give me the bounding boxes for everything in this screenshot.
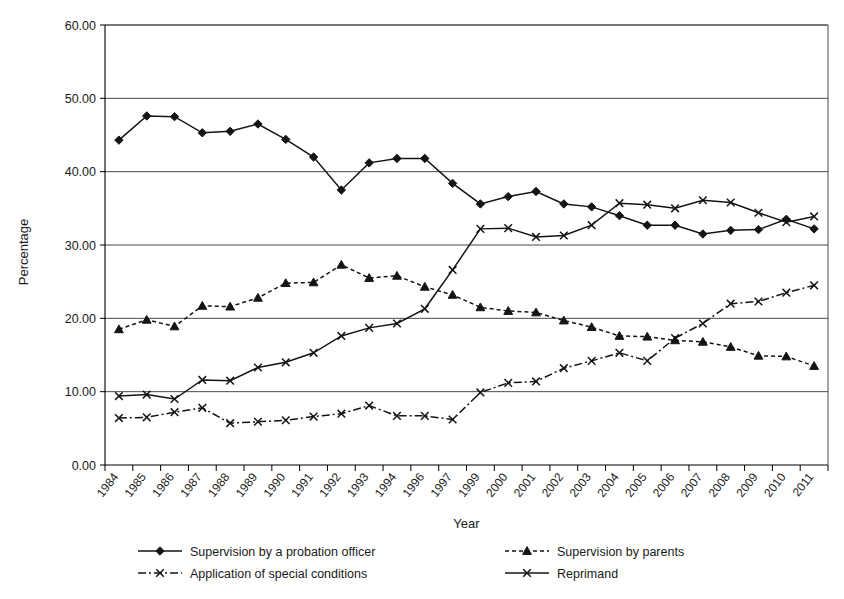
data-point	[587, 203, 595, 211]
legend-item[interactable]: Reprimand	[505, 567, 618, 581]
data-point	[643, 221, 651, 229]
data-point	[754, 225, 762, 233]
data-point	[420, 282, 429, 290]
legend-label: Supervision by parents	[557, 545, 684, 559]
series-1	[115, 112, 819, 238]
xtick-label: 1992	[316, 470, 344, 500]
ytick-label: 60.00	[65, 19, 96, 33]
xtick-label: 2006	[650, 470, 678, 500]
data-point	[532, 187, 540, 195]
data-point	[254, 293, 263, 301]
xtick-label: 2001	[511, 470, 539, 500]
data-point	[170, 322, 179, 330]
data-point	[615, 211, 623, 219]
data-point	[699, 230, 707, 238]
data-point	[337, 260, 346, 268]
chart-canvas: 0.0010.0020.0030.0040.0050.0060.00198419…	[0, 0, 844, 599]
legend-item[interactable]: Application of special conditions	[138, 567, 367, 581]
line-chart: 0.0010.0020.0030.0040.0050.0060.00198419…	[0, 0, 844, 599]
ytick-label: 40.00	[65, 165, 96, 179]
series-4	[115, 196, 818, 402]
data-point	[504, 192, 512, 200]
xtick-label: 2008	[706, 470, 734, 500]
legend-label: Supervision by a probation officer	[190, 545, 375, 559]
xtick-label: 2004	[594, 470, 622, 500]
data-point	[810, 225, 818, 233]
data-point	[754, 351, 763, 359]
series-line-1	[119, 116, 814, 234]
ytick-label: 10.00	[65, 385, 96, 399]
xtick-label: 2011	[790, 470, 817, 499]
xtick-label: 1984	[94, 470, 122, 500]
xtick-label: 2010	[761, 470, 789, 500]
data-point	[726, 343, 735, 351]
data-point	[226, 127, 234, 135]
data-point	[560, 200, 568, 208]
series-line-4	[119, 200, 814, 399]
xtick-label: 2002	[539, 470, 567, 500]
data-point	[282, 135, 290, 143]
ytick-label: 20.00	[65, 312, 96, 326]
data-point	[170, 112, 178, 120]
xtick-label: 1993	[344, 470, 372, 500]
xtick-label: 2000	[483, 470, 511, 500]
data-point	[142, 315, 151, 323]
xtick-label: 1996	[400, 470, 428, 500]
xtick-label: 1989	[233, 470, 261, 500]
xtick-label: 1997	[427, 470, 455, 500]
data-point	[448, 290, 457, 298]
data-point	[726, 226, 734, 234]
data-point	[782, 352, 791, 360]
y-axis-title: Percentage	[16, 219, 31, 286]
ytick-label: 0.00	[72, 459, 96, 473]
xtick-label: 1987	[177, 470, 205, 500]
xtick-label: 1994	[372, 470, 400, 500]
xtick-label: 2005	[622, 470, 650, 500]
xtick-label: 2003	[567, 470, 595, 500]
ytick-label: 30.00	[65, 239, 96, 253]
data-point	[643, 332, 652, 340]
x-axis-title: Year	[453, 516, 480, 531]
xtick-label: 1999	[455, 470, 483, 500]
xtick-label: 1991	[288, 470, 316, 500]
legend-item[interactable]: Supervision by a probation officer	[138, 545, 375, 559]
data-point	[254, 120, 262, 128]
xtick-label: 1990	[261, 470, 289, 500]
data-point	[393, 154, 401, 162]
legend-swatch-marker	[156, 547, 164, 555]
data-point	[198, 301, 207, 309]
legend-label: Reprimand	[557, 567, 618, 581]
series-line-2	[119, 265, 814, 366]
legend-item[interactable]: Supervision by parents	[505, 545, 684, 559]
xtick-label: 1988	[205, 470, 233, 500]
ytick-label: 50.00	[65, 92, 96, 106]
data-point	[476, 303, 485, 311]
data-point	[226, 302, 235, 310]
legend-label: Application of special conditions	[190, 567, 367, 581]
series-2	[115, 260, 819, 369]
data-point	[198, 129, 206, 137]
data-point	[810, 362, 819, 370]
series-3	[115, 282, 818, 427]
xtick-label: 2009	[733, 470, 761, 500]
data-point	[671, 221, 679, 229]
xtick-label: 2007	[678, 470, 706, 500]
xtick-label: 1985	[122, 470, 150, 500]
legend-swatch-marker	[523, 547, 532, 555]
xtick-label: 1986	[149, 470, 177, 500]
